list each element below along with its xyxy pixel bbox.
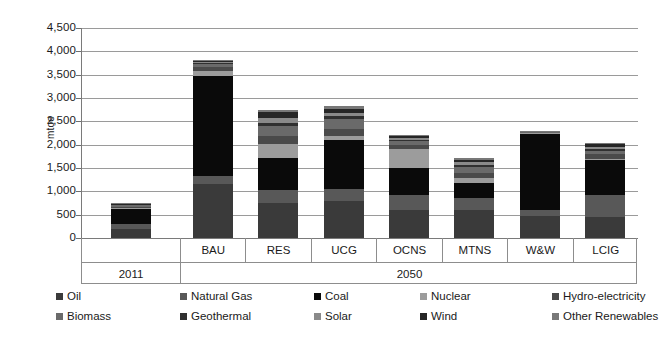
bar-segment	[193, 63, 233, 64]
legend-swatch-icon	[420, 293, 427, 300]
category-label-cell: RES	[245, 238, 310, 262]
bar-segment	[193, 62, 233, 63]
legend-label: Geothermal	[191, 310, 251, 322]
bar-column	[324, 28, 364, 238]
category-axis: BAURESUCGOCNSMTNSW&WLCIG 20112050	[81, 238, 637, 284]
legend-swatch-icon	[56, 293, 63, 300]
legend-label: Solar	[325, 310, 352, 322]
bar-segment	[389, 135, 429, 136]
bar-segment	[454, 210, 494, 238]
legend-item: Other Renewables	[552, 310, 658, 322]
bar-segment	[585, 154, 625, 158]
bar-column	[258, 28, 298, 238]
category-label-cell: MTNS	[442, 238, 507, 262]
bar-segment	[111, 208, 151, 209]
legend-item: Oil	[56, 290, 81, 302]
bar-segment	[193, 63, 233, 66]
y-tick-label: 2,500	[20, 115, 76, 126]
bar-segment	[585, 144, 625, 146]
bar-segment	[454, 173, 494, 179]
bar-column	[520, 28, 560, 238]
category-label-cell	[82, 238, 180, 262]
bar-segment	[324, 119, 364, 130]
legend-swatch-icon	[56, 313, 63, 320]
legend-label: Biomass	[67, 310, 111, 322]
bar-segment	[324, 129, 364, 136]
plot-area	[81, 28, 638, 238]
y-tick-label: 0	[20, 232, 76, 243]
bar-segment	[193, 60, 233, 61]
bar-column	[389, 28, 429, 238]
bar-segment	[258, 203, 298, 238]
bar-segment	[389, 210, 429, 238]
bar-segment	[324, 113, 364, 116]
bar-segment	[111, 204, 151, 206]
group-label-cell: 2011	[82, 263, 180, 284]
bar-segment	[258, 144, 298, 158]
bar-segment	[454, 183, 494, 198]
y-tick-label: 1,000	[20, 185, 76, 196]
bar-segment	[324, 116, 364, 118]
legend-item: Coal	[314, 290, 349, 302]
bar-column	[111, 28, 151, 238]
legend-label: Other Renewables	[563, 310, 658, 322]
bar-segment	[324, 109, 364, 113]
legend-swatch-icon	[552, 313, 559, 320]
bar-segment	[585, 195, 625, 217]
bar-segment	[520, 133, 560, 134]
bar-column	[585, 28, 625, 238]
bar-segment	[111, 224, 151, 229]
legend-label: Natural Gas	[191, 290, 252, 302]
bar-segment	[324, 136, 364, 140]
category-row-years: 20112050	[82, 262, 636, 284]
legend-item: Geothermal	[180, 310, 251, 322]
legend-item: Hydro-electricity	[552, 290, 645, 302]
bar-segment	[520, 134, 560, 210]
y-tick-label: 3,000	[20, 92, 76, 103]
bar-segment	[389, 136, 429, 138]
bar-segment	[389, 141, 429, 145]
bar-segment	[258, 110, 298, 113]
bar-segment	[389, 168, 429, 195]
bar-segment	[258, 158, 298, 190]
bar-segment	[111, 209, 151, 224]
y-tick-label: 3,500	[20, 69, 76, 80]
legend-swatch-icon	[314, 313, 321, 320]
y-tick-label: 4,000	[20, 45, 76, 56]
bar-segment	[454, 178, 494, 183]
bar-segment	[520, 210, 560, 216]
legend-swatch-icon	[420, 313, 427, 320]
stacked-bar-chart: mtoe 05001,0001,5002,0002,5003,0003,5004…	[0, 0, 667, 348]
bar-segment	[193, 60, 233, 61]
bar-segment	[258, 136, 298, 143]
category-label-cell: BAU	[180, 238, 245, 262]
legend-item: Wind	[420, 310, 457, 322]
bar-segment	[585, 147, 625, 150]
bar-segment	[520, 132, 560, 133]
bar-column	[193, 28, 233, 238]
bar-segment	[585, 217, 625, 238]
bar-segment	[520, 216, 560, 238]
category-label-cell: UCG	[311, 238, 376, 262]
bar-segment	[193, 76, 233, 176]
legend: OilNatural GasCoalNuclearHydro-electrici…	[56, 290, 656, 330]
bar-segment	[389, 145, 429, 149]
bar-segment	[193, 176, 233, 184]
legend-item: Nuclear	[420, 290, 471, 302]
bar-segment	[389, 138, 429, 140]
y-tick-label: 1,500	[20, 162, 76, 173]
bar-segment	[324, 106, 364, 109]
bar-segment	[258, 112, 298, 117]
bar-segment	[389, 195, 429, 210]
legend-item: Solar	[314, 310, 352, 322]
bar-segment	[454, 165, 494, 167]
bar-segment	[324, 140, 364, 189]
bar-segment	[585, 159, 625, 160]
bar-segment	[454, 167, 494, 173]
bar-segment	[258, 118, 298, 124]
bar-segment	[454, 158, 494, 160]
bar-segment	[193, 67, 233, 71]
bar-segment	[324, 189, 364, 200]
group-label-cell: 2050	[180, 263, 638, 284]
y-tick-label: 2,000	[20, 139, 76, 150]
